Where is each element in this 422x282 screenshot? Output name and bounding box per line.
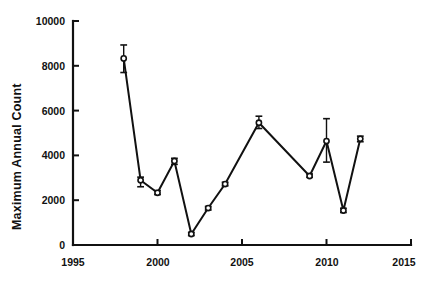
y-tick-label-4000: 4000	[42, 149, 66, 161]
x-tick-label-1995: 1995	[61, 256, 85, 268]
y-tick-label-10000: 10000	[36, 15, 65, 27]
data-point-marker	[324, 138, 329, 143]
y-tick-label-8000: 8000	[42, 60, 66, 72]
y-tick-label-6000: 6000	[42, 105, 66, 117]
x-tick-label-2000: 2000	[146, 256, 170, 268]
data-point-marker	[138, 178, 143, 183]
data-point-marker	[223, 181, 228, 186]
line-chart-plot: Maximum Annual Count 10000 8000 6000 400…	[0, 0, 422, 282]
data-point-marker	[358, 136, 363, 141]
data-point	[188, 231, 195, 236]
chart-figure: Maximum Annual Count 10000 8000 6000 400…	[0, 0, 422, 282]
data-point	[357, 136, 364, 142]
x-tick-label-2010: 2010	[315, 256, 339, 268]
data-point-marker	[172, 158, 177, 163]
data-point-marker	[307, 173, 312, 178]
data-point-marker	[206, 205, 211, 210]
data-point	[340, 208, 347, 213]
data-point	[222, 181, 229, 186]
y-axis-title: Maximum Annual Count	[10, 83, 24, 230]
data-point-marker	[155, 190, 160, 195]
y-tick-label-2000: 2000	[42, 194, 66, 206]
y-tick-label-0: 0	[59, 239, 65, 251]
x-tick-label-2015: 2015	[392, 256, 416, 268]
data-point-marker	[341, 208, 346, 213]
x-tick-label-2005: 2005	[230, 256, 254, 268]
data-point	[154, 190, 161, 195]
data-point-marker	[189, 231, 194, 236]
data-point-marker	[256, 120, 261, 125]
data-point-marker	[121, 56, 126, 61]
data-point	[205, 205, 212, 210]
data-point	[306, 173, 313, 178]
